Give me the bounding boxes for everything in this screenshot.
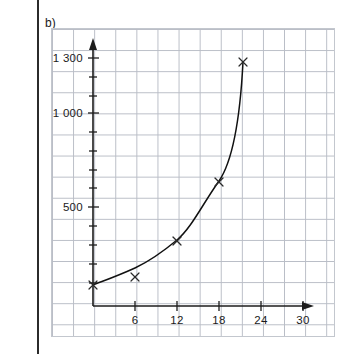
data-point-marker <box>215 178 223 186</box>
y-axis-arrowhead <box>89 38 97 50</box>
y-tick-label-1000: 1 000 <box>10 107 83 119</box>
x-axis-arrowhead <box>302 302 314 310</box>
x-tick-label-18: 18 <box>212 314 225 326</box>
x-tick-label-24: 24 <box>254 314 267 326</box>
x-tick-label-12: 12 <box>170 314 183 326</box>
y-tick-label-1300: 1 300 <box>10 52 83 64</box>
data-curve <box>93 62 243 285</box>
data-point-marker <box>131 273 139 281</box>
x-tick-label-6: 6 <box>132 314 139 326</box>
figure-panel: b) <box>0 0 347 354</box>
data-point-marker <box>173 237 181 245</box>
x-tick-label-30: 30 <box>296 314 309 326</box>
y-tick-label-500: 500 <box>10 201 83 213</box>
